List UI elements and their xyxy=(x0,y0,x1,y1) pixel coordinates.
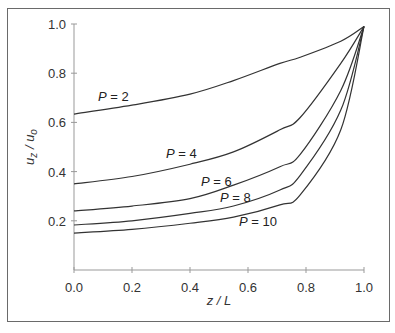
x-tick-label: 0.2 xyxy=(123,280,141,295)
axes: 0.00.20.40.60.81.00.20.40.60.81.0 xyxy=(48,17,373,295)
curve-label: P = 6 xyxy=(201,174,232,189)
line-chart: 0.00.20.40.60.81.00.20.40.60.81.0 P = 2P… xyxy=(0,0,395,333)
x-tick-label: 0.0 xyxy=(65,280,83,295)
y-tick-label: 0.6 xyxy=(48,115,66,130)
curve-labels: P = 2P = 4P = 6P = 8P = 10 xyxy=(98,89,277,229)
y-tick-label: 0.4 xyxy=(48,165,66,180)
x-tick-label: 0.8 xyxy=(297,280,315,295)
curve-label: P = 4 xyxy=(166,146,197,161)
y-tick-label: 0.2 xyxy=(48,214,66,229)
y-tick-label: 0.8 xyxy=(48,66,66,81)
y-axis-title: uz / uo xyxy=(22,129,39,165)
curves xyxy=(74,26,364,233)
x-axis-title: z / L xyxy=(206,293,232,308)
svg-text:uz / uo: uz / uo xyxy=(22,129,39,165)
x-tick-label: 0.6 xyxy=(239,280,257,295)
x-tick-label: 0.4 xyxy=(181,280,199,295)
curve-label: P = 8 xyxy=(220,190,251,205)
series-curve xyxy=(74,26,364,233)
y-tick-label: 1.0 xyxy=(48,17,66,32)
x-tick-label: 1.0 xyxy=(355,280,373,295)
curve-label: P = 10 xyxy=(239,214,277,229)
curve-label: P = 2 xyxy=(98,89,129,104)
